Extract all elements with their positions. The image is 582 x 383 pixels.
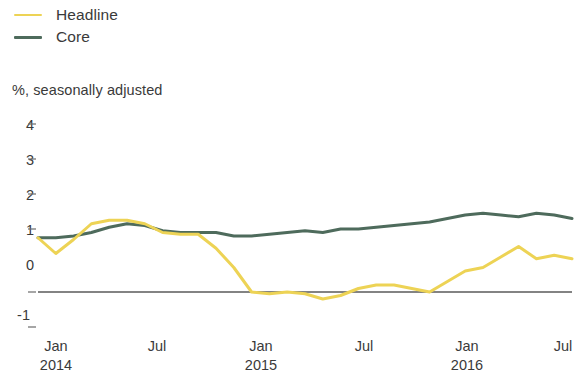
series-line-core: [38, 213, 572, 238]
inflation-line-chart: Headline Core %, seasonally adjusted 4 3…: [0, 0, 582, 383]
y-tick-marks: [28, 124, 36, 327]
plot-area: [0, 0, 582, 383]
